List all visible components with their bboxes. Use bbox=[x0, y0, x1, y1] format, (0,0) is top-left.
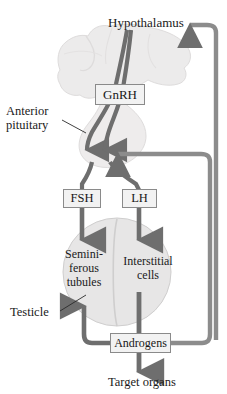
seminiferous-tubules-line3: tubules bbox=[54, 276, 114, 290]
seminiferous-tubules-line2: ferous bbox=[54, 262, 114, 276]
lh-box[interactable]: LH bbox=[122, 189, 157, 208]
androgens-box[interactable]: Androgens bbox=[110, 333, 171, 353]
anterior-pituitary-leader-line bbox=[62, 120, 86, 133]
anterior-pituitary-label-line1: Anterior bbox=[6, 104, 48, 118]
hpg-axis-diagram: Hypothalamus Anterior pituitary Testicle… bbox=[0, 0, 227, 394]
anterior-pituitary-label-line2: pituitary bbox=[6, 118, 48, 132]
pituitary-silhouette bbox=[79, 95, 146, 168]
gnrh-box[interactable]: GnRH bbox=[95, 84, 145, 105]
seminiferous-tubules-line1: Semini- bbox=[54, 248, 114, 262]
lh-secretion-path bbox=[110, 162, 139, 190]
interstitial-cells-line1: Interstitial bbox=[118, 255, 178, 269]
interstitial-cells-label: Interstitial cells bbox=[118, 255, 178, 283]
anterior-pituitary-label: Anterior pituitary bbox=[6, 104, 48, 132]
fsh-secretion-path bbox=[82, 162, 92, 190]
hypothalamus-label: Hypothalamus bbox=[108, 16, 184, 30]
fsh-box[interactable]: FSH bbox=[63, 189, 101, 208]
testicle-label: Testicle bbox=[10, 305, 49, 319]
target-organs-label: Target organs bbox=[108, 376, 176, 390]
seminiferous-tubules-label: Semini- ferous tubules bbox=[54, 248, 114, 290]
interstitial-cells-line2: cells bbox=[118, 269, 178, 283]
